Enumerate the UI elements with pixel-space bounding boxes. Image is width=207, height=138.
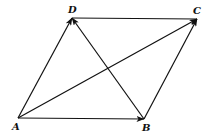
label-c: C	[193, 5, 201, 16]
label-b: B	[141, 122, 150, 133]
vector-edges	[18, 18, 197, 119]
label-a: A	[11, 121, 20, 132]
edge-ab	[18, 118, 144, 119]
vertex-labels: A B C D	[11, 4, 201, 133]
label-d: D	[67, 4, 77, 15]
edge-dc	[72, 18, 197, 19]
edge-bd	[72, 18, 144, 119]
parallelogram-diagram: A B C D	[0, 0, 207, 138]
